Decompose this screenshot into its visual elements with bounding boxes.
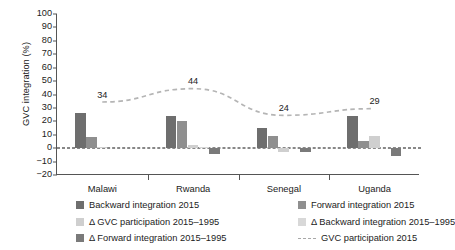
legend-color-swatch xyxy=(76,218,84,226)
line-point-label: 44 xyxy=(188,76,198,86)
legend-item[interactable]: Δ Backward integration 2015–1995 xyxy=(298,217,455,227)
line-point-label: 29 xyxy=(370,96,380,106)
line-point-label: 34 xyxy=(97,90,107,100)
y-axis-tick-mark xyxy=(53,175,57,176)
x-axis-separator xyxy=(329,174,330,180)
x-axis-category-label: Malawi xyxy=(88,183,117,194)
legend-color-swatch xyxy=(298,218,306,226)
legend-color-swatch xyxy=(76,201,84,209)
legend-item[interactable]: Δ Forward integration 2015–1995 xyxy=(76,233,298,243)
legend-item[interactable]: GVC participation 2015 xyxy=(298,233,455,243)
legend-item-label: Forward integration 2015 xyxy=(311,200,414,210)
x-axis-separator xyxy=(148,174,149,180)
legend-line-swatch xyxy=(298,238,316,239)
legend-item-label: Δ GVC participation 2015–1995 xyxy=(89,217,219,227)
plot-inner: 1009080706050403020100−10−20MalawiRwanda… xyxy=(57,14,419,174)
legend-color-swatch xyxy=(76,234,84,242)
line-point-label: 24 xyxy=(279,103,289,113)
x-axis-category-label: Uganda xyxy=(358,183,391,194)
legend-item-label: Δ Backward integration 2015–1995 xyxy=(311,217,455,227)
legend-item[interactable]: Backward integration 2015 xyxy=(76,200,298,210)
legend-item[interactable]: Δ GVC participation 2015–1995 xyxy=(76,217,298,227)
legend-color-swatch xyxy=(298,201,306,209)
x-axis-separator xyxy=(239,174,240,180)
legend-item-label: GVC participation 2015 xyxy=(321,233,417,243)
y-axis-title: GVC integration (%) xyxy=(21,9,31,159)
legend-item-label: Backward integration 2015 xyxy=(89,200,199,210)
gvc-participation-line xyxy=(57,14,419,174)
chart-legend: Backward integration 2015Forward integra… xyxy=(76,197,426,247)
x-axis-category-label: Rwanda xyxy=(176,183,210,194)
plot-area: 1009080706050403020100−10−20MalawiRwanda… xyxy=(56,14,419,175)
legend-item-label: Δ Forward integration 2015–1995 xyxy=(89,233,227,243)
legend-item[interactable]: Forward integration 2015 xyxy=(298,200,455,210)
x-axis-category-label: Senegal xyxy=(267,183,301,194)
